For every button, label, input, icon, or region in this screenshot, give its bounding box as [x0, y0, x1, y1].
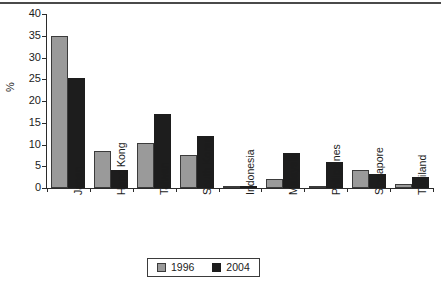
y-tick-label: 0 [35, 181, 41, 194]
y-tick-mark [42, 101, 46, 102]
legend-label-1996: 1996 [171, 261, 194, 273]
y-tick-label: 5 [35, 159, 41, 172]
bar-chart-figure: % 0510152025303540 JapanHong KongTaiwanS… [0, 0, 441, 283]
x-tick-mark [90, 188, 91, 192]
y-tick-mark [42, 36, 46, 37]
x-tick-mark [176, 188, 177, 192]
y-tick-label: 20 [29, 94, 41, 107]
y-tick-label: 30 [29, 51, 41, 64]
bar-1996-hong-kong [94, 151, 111, 188]
bar-group [51, 14, 85, 188]
x-label-thailand: Thailand [417, 155, 428, 195]
bar-1996-japan [51, 36, 68, 188]
x-tick-mark [304, 188, 305, 192]
bar-1996-thailand [395, 184, 412, 188]
y-tick-mark [42, 166, 46, 167]
y-tick-mark [42, 145, 46, 146]
x-label-indonesia: Indonesia [245, 149, 256, 195]
y-tick-mark [42, 123, 46, 124]
bar-1996-indonesia [223, 186, 240, 188]
legend-swatch-1996 [157, 263, 166, 272]
y-tick-mark [42, 14, 46, 15]
x-label-japan: Japan [73, 166, 84, 195]
y-tick-label: 10 [29, 138, 41, 151]
y-tick-label: 15 [29, 116, 41, 129]
bar-1996-philippines [309, 186, 326, 188]
x-label-hong-kong: Hong Kong [116, 142, 127, 195]
x-tick-mark [219, 188, 220, 192]
x-tick-mark [433, 188, 434, 192]
y-tick-label: 35 [29, 29, 41, 42]
x-label-south-korea: South Korea [202, 137, 213, 195]
x-label-singapore: Singapore [374, 147, 385, 195]
y-tick-mark [42, 79, 46, 80]
x-tick-mark [390, 188, 391, 192]
y-tick-label: 25 [29, 72, 41, 85]
y-tick-mark [42, 58, 46, 59]
legend-label-2004: 2004 [226, 261, 249, 273]
bar-1996-south-korea [180, 155, 197, 188]
y-tick-mark [42, 188, 46, 189]
x-tick-mark [261, 188, 262, 192]
legend-swatch-2004 [212, 263, 221, 272]
bar-1996-singapore [352, 170, 369, 188]
bar-1996-taiwan [137, 143, 154, 188]
x-tick-mark [133, 188, 134, 192]
y-axis-title: % [4, 82, 16, 92]
x-tick-mark [47, 188, 48, 192]
x-label-philippines: Philippines [331, 144, 342, 195]
page-top-rule [0, 2, 441, 4]
x-tick-mark [347, 188, 348, 192]
y-tick-label: 40 [29, 7, 41, 20]
legend-item-series-1: 1996 [157, 261, 194, 273]
bar-1996-malaysia [266, 179, 283, 188]
legend-item-series-2: 2004 [212, 261, 249, 273]
x-label-taiwan: Taiwan [159, 162, 170, 195]
x-label-malaysia: Malaysia [288, 154, 299, 195]
chart-legend: 1996 2004 [147, 258, 260, 277]
